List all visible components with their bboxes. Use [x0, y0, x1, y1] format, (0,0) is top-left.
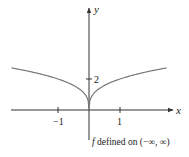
x-tick-label-1: 1: [117, 116, 122, 127]
y-tick-label-2: 2: [94, 74, 99, 85]
x-axis-label: x: [175, 104, 181, 116]
y-axis-label: y: [93, 3, 99, 15]
chart: y x −1 1 2 f defined on (−∞, ∞): [0, 0, 189, 157]
x-tick-label-neg1: −1: [53, 116, 64, 127]
caption-rest: defined on (−∞, ∞): [95, 137, 170, 148]
domain-caption: f defined on (−∞, ∞): [92, 137, 170, 148]
